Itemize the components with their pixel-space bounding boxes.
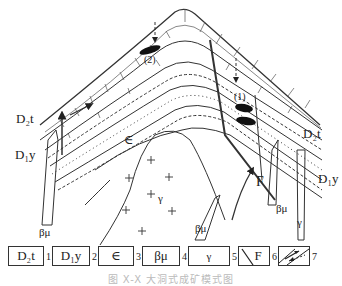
orebody-1b bbox=[235, 115, 256, 126]
label-d1y-left: D₁y bbox=[15, 148, 35, 161]
fault-icon bbox=[239, 247, 271, 267]
legend-box-d1y: D₁y bbox=[52, 246, 90, 266]
legend-number: 3 bbox=[136, 251, 141, 262]
label-diabase-center: βμ bbox=[195, 223, 207, 234]
figure-caption: 图 X-X 大洞式成矿模式图 bbox=[0, 271, 342, 286]
label-granite: γ bbox=[158, 193, 163, 204]
legend-number: 6 bbox=[272, 251, 277, 262]
label-d2t-left: D₂t bbox=[16, 112, 34, 125]
legend-number: 7 bbox=[312, 251, 317, 262]
label-orebody-1: (1) bbox=[234, 92, 246, 102]
label-d1y-right: D₁y bbox=[318, 172, 338, 185]
label-diabase-left: βμ bbox=[39, 227, 51, 238]
diabase-dike-right bbox=[268, 140, 278, 205]
legend-box-granite: γ bbox=[188, 246, 230, 266]
label-cambrian: ∈ bbox=[124, 133, 134, 146]
label-fault: F bbox=[256, 175, 264, 189]
label-granite-dike: γ bbox=[297, 217, 302, 228]
label-diabase-right: βμ bbox=[276, 203, 288, 214]
diabase-dike-left bbox=[42, 130, 58, 225]
legend-number: 1 bbox=[46, 251, 51, 262]
legend-number: 5 bbox=[232, 251, 237, 262]
label-d2t-right: D₂t bbox=[303, 127, 321, 140]
legend-box-d2t: D₂t bbox=[8, 246, 44, 266]
legend-box-cambrian: ∈ bbox=[98, 246, 134, 266]
legend-box-arrows bbox=[278, 246, 310, 266]
legend-box-fault: F bbox=[238, 246, 270, 266]
ore-fluid-arrows-icon bbox=[279, 247, 309, 265]
legend-box-diabase: βμ bbox=[142, 246, 180, 266]
legend-number: 2 bbox=[92, 251, 97, 262]
legend-number: 4 bbox=[182, 251, 187, 262]
label-orebody-2: (2) bbox=[144, 55, 156, 65]
legend: D₂t 1 D₁y 2 ∈ 3 βμ 4 γ 5 F 6 7 bbox=[8, 245, 318, 267]
